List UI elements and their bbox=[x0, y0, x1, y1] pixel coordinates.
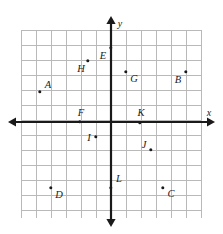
plot-point-j bbox=[149, 148, 152, 151]
point-label-d: D bbox=[55, 190, 63, 201]
plot-point-h bbox=[86, 59, 89, 62]
plot-point-a bbox=[38, 90, 41, 93]
plot-point-c bbox=[161, 186, 164, 189]
point-label-g: G bbox=[130, 74, 138, 85]
point-label-c: C bbox=[167, 189, 174, 200]
plot-point-k bbox=[138, 121, 141, 124]
plot-point-f bbox=[78, 120, 81, 123]
plotted-points: ABCDEFGHIJKL bbox=[0, 0, 223, 234]
plot-point-d bbox=[49, 186, 52, 189]
point-label-a: A bbox=[45, 80, 51, 91]
point-label-l: L bbox=[116, 174, 122, 185]
plot-point-i bbox=[94, 135, 97, 138]
point-label-j: J bbox=[142, 140, 147, 151]
point-label-k: K bbox=[137, 108, 144, 119]
plot-point-b bbox=[184, 70, 187, 73]
point-label-i: I bbox=[87, 133, 91, 144]
plot-point-l bbox=[109, 186, 112, 189]
point-label-b: B bbox=[175, 75, 181, 86]
point-label-f: F bbox=[78, 108, 84, 119]
plot-point-e bbox=[109, 46, 112, 49]
point-label-h: H bbox=[77, 64, 85, 75]
coordinate-plane-figure: x y ABCDEFGHIJKL bbox=[0, 0, 223, 234]
point-label-e: E bbox=[100, 51, 106, 62]
plot-point-g bbox=[124, 70, 127, 73]
